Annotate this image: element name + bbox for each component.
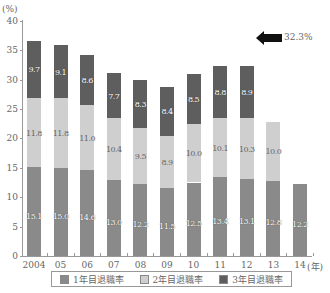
value-label: 13.0 [106, 217, 122, 226]
bar-segment-year1: 11.5 [160, 188, 174, 256]
bar-segment-year1: 12.2 [133, 184, 147, 256]
legend-item-year2: 2年目退職率 [140, 273, 204, 286]
value-label: 11.8 [53, 129, 69, 138]
bar-segment-year3: 7.7 [107, 73, 121, 118]
y-tick-label: 30 [2, 75, 18, 85]
value-label: 10.1 [212, 143, 228, 152]
value-label: 8.5 [188, 94, 199, 103]
x-tick-mark [233, 253, 234, 256]
legend-label-year3: 3年目退職率 [232, 273, 283, 286]
y-tick-label: 20 [2, 133, 18, 143]
y-tick-mark [20, 80, 23, 81]
x-tick-label: 12 [232, 260, 262, 270]
x-tick-mark [313, 253, 314, 256]
bar-segment-year2: 10.4 [107, 118, 121, 179]
x-tick-mark [260, 253, 261, 256]
bar-segment-year2: 10.0 [266, 122, 280, 181]
value-label: 12.2 [292, 219, 308, 228]
bar-segment-year2: 10.1 [213, 118, 227, 177]
bar-segment-year2: 10.3 [240, 118, 254, 179]
bar-segment-year3: 8.6 [80, 55, 94, 106]
x-tick-mark [286, 253, 287, 256]
value-label: 11.8 [26, 128, 42, 137]
y-tick-label: 35 [2, 45, 18, 55]
value-label: 15.0 [53, 212, 69, 221]
stacked-bar-chart: (%) 0510152025303540 15.111.89.715.011.8… [0, 0, 330, 293]
value-label: 10.3 [239, 144, 255, 153]
x-tick-mark [180, 253, 181, 256]
value-label: 15.1 [26, 212, 42, 221]
bar-segment-year2: 11.8 [54, 98, 68, 167]
legend: 1年目退職率 2年目退職率 3年目退職率 [51, 271, 292, 287]
bar-segment-year1: 13.0 [107, 180, 121, 256]
value-label: 8.9 [161, 158, 172, 167]
arrow-left-icon [256, 31, 282, 45]
legend-item-year3: 3年目退職率 [219, 273, 283, 286]
bar-segment-year1: 15.1 [27, 167, 41, 256]
x-tick-mark [74, 253, 75, 256]
bar-segment-year3: 8.3 [133, 80, 147, 129]
value-label: 11.5 [159, 221, 175, 230]
y-tick-label: 25 [2, 104, 18, 114]
bar-segment-year3: 9.7 [27, 41, 41, 98]
x-tick-label: 11 [205, 260, 235, 270]
x-axis-unit: (年) [307, 260, 323, 273]
y-tick-label: 5 [2, 222, 18, 232]
legend-label-year1: 1年目退職率 [73, 273, 124, 286]
value-label: 14.6 [79, 213, 95, 222]
y-tick-mark [20, 227, 23, 228]
x-tick-label: 13 [258, 260, 288, 270]
value-label: 7.7 [108, 91, 119, 100]
bar-segment-year1: 12.2 [293, 184, 307, 256]
y-tick-mark [20, 109, 23, 110]
bar-segment-year1: 15.0 [54, 168, 68, 256]
bar-segment-year2: 8.9 [160, 136, 174, 188]
x-tick-label: 10 [179, 260, 209, 270]
bar-segment-year1: 13.1 [240, 179, 254, 256]
bar-segment-year1: 12.8 [266, 181, 280, 256]
bar-segment-year2: 11.0 [80, 105, 94, 170]
value-label: 8.6 [82, 76, 93, 85]
value-label: 13.4 [212, 216, 228, 225]
value-label: 12.2 [132, 219, 148, 228]
value-label: 8.3 [135, 99, 146, 108]
x-tick-label: 05 [46, 260, 76, 270]
x-tick-label: 2004 [19, 260, 49, 270]
x-tick-mark [100, 253, 101, 256]
x-tick-mark [47, 253, 48, 256]
value-label: 10.0 [186, 149, 202, 158]
value-label: 10.0 [265, 147, 281, 156]
y-tick-label: 15 [2, 163, 18, 173]
bar-segment-year2: 11.8 [27, 98, 41, 167]
bar-segment-year2: 9.5 [133, 128, 147, 184]
bar-segment-year3: 8.4 [160, 87, 174, 136]
x-axis [22, 256, 312, 257]
legend-item-year1: 1年目退職率 [60, 273, 124, 286]
y-tick-mark [20, 256, 23, 257]
value-label: 8.9 [241, 88, 252, 97]
x-tick-label: 08 [125, 260, 155, 270]
value-label: 12.5 [186, 218, 202, 227]
legend-swatch-year3 [219, 275, 228, 284]
x-tick-label: 06 [72, 260, 102, 270]
x-tick-label: 07 [99, 260, 129, 270]
value-label: 10.4 [106, 144, 122, 153]
x-tick-mark [153, 253, 154, 256]
bar-segment-year1: 14.6 [80, 170, 94, 256]
y-tick-mark [20, 197, 23, 198]
y-axis-unit: (%) [2, 4, 18, 14]
value-label: 8.4 [161, 107, 172, 116]
bar-segment-year3: 9.1 [54, 45, 68, 99]
value-label: 9.7 [28, 65, 39, 74]
bar-segment-year3: 8.9 [240, 66, 254, 118]
y-tick-mark [20, 50, 23, 51]
legend-swatch-year1 [60, 275, 69, 284]
y-tick-mark [20, 21, 23, 22]
bar-segment-year2: 10.0 [187, 124, 201, 183]
bar-segment-year3: 8.5 [187, 74, 201, 124]
legend-swatch-year2 [140, 275, 149, 284]
value-label: 8.8 [215, 87, 226, 96]
value-label: 12.8 [265, 218, 281, 227]
bar-segment-year1: 12.5 [187, 183, 201, 257]
value-label: 11.0 [79, 133, 95, 142]
